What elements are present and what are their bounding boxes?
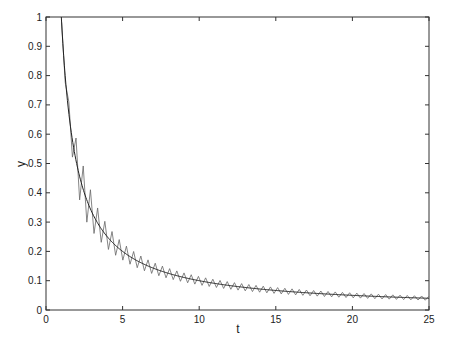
x-tick-label: 25 (423, 314, 435, 325)
y-tick-label: 0.1 (28, 275, 42, 286)
x-axis-label: t (236, 322, 240, 336)
x-tick-label: 15 (270, 314, 282, 325)
y-tick-label: 0.6 (28, 129, 42, 140)
x-tick-label: 0 (43, 314, 49, 325)
y-tick-label: 0 (36, 305, 42, 316)
chart: 0510152025 00.10.20.30.40.50.60.70.80.91… (0, 0, 451, 349)
y-tick-label: 0.4 (28, 187, 42, 198)
x-tick-label: 5 (120, 314, 126, 325)
y-axis-label: y (14, 161, 28, 167)
x-tick-label: 20 (347, 314, 359, 325)
y-tick-label: 0.2 (28, 246, 42, 257)
y-tick-label: 1 (36, 12, 42, 23)
y-tick-label: 0.5 (28, 158, 42, 169)
y-tick-label: 0.8 (28, 70, 42, 81)
y-tick-label: 0.7 (28, 99, 42, 110)
x-axis-ticks: 0510152025 (43, 17, 435, 325)
smooth-series-line (61, 17, 429, 298)
y-tick-label: 0.3 (28, 217, 42, 228)
x-tick-label: 10 (194, 314, 206, 325)
y-tick-label: 0.9 (28, 41, 42, 52)
y-axis-ticks: 00.10.20.30.40.50.60.70.80.91 (28, 12, 429, 316)
plot-frame (46, 17, 429, 310)
oscillating-series-line (62, 22, 429, 300)
